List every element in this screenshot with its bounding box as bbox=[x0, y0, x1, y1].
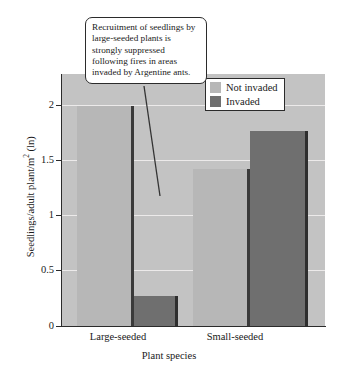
callout-annotation-text: Recruitment of seedlings by large-seeded… bbox=[92, 22, 200, 78]
bar-face bbox=[134, 296, 175, 326]
legend-swatch-icon-invaded bbox=[210, 96, 221, 107]
bar-large-seeded-invaded[interactable] bbox=[134, 296, 175, 326]
x-axis-line bbox=[61, 326, 326, 327]
legend-item-invaded[interactable]: Invaded bbox=[210, 96, 278, 107]
y-tick-mark-0 bbox=[56, 326, 62, 327]
y-axis-title-tail: (ln) bbox=[25, 136, 36, 154]
bar-side bbox=[175, 296, 178, 326]
legend: Not invaded Invaded bbox=[205, 78, 285, 111]
y-tick-mark-0.5 bbox=[56, 270, 62, 271]
y-axis-line bbox=[61, 74, 62, 327]
plot-area bbox=[62, 74, 325, 326]
x-tick-label-large-seeded: Large-seeded bbox=[63, 331, 173, 342]
y-tick-mark-1.0 bbox=[56, 215, 62, 216]
bar-large-seeded-not-invaded[interactable] bbox=[77, 106, 131, 326]
y-axis-title-main: Seedlings/adult plant/m bbox=[25, 158, 36, 257]
legend-swatch-icon-not-invaded bbox=[210, 82, 221, 93]
bar-face bbox=[193, 169, 247, 326]
y-tick-label-0: 0 bbox=[14, 321, 54, 331]
bar-face bbox=[77, 106, 131, 326]
bar-side bbox=[131, 106, 134, 326]
y-tick-mark-1.5 bbox=[56, 160, 62, 161]
y-tick-mark-2.0 bbox=[56, 105, 62, 106]
y-axis-title-superscript: 2 bbox=[22, 154, 31, 158]
figure-container: 2 1.5 1 0.5 0 Seedlings/adult plant/m2 (… bbox=[0, 0, 338, 372]
bar-small-seeded-invaded[interactable] bbox=[250, 131, 305, 326]
x-axis-title: Plant species bbox=[0, 350, 338, 361]
callout-annotation-box: Recruitment of seedlings by large-seeded… bbox=[85, 17, 207, 84]
legend-item-not-invaded[interactable]: Not invaded bbox=[210, 82, 278, 93]
bar-side bbox=[305, 131, 308, 326]
legend-label-invaded: Invaded bbox=[226, 96, 260, 107]
bar-face bbox=[250, 131, 305, 326]
legend-label-not-invaded: Not invaded bbox=[226, 82, 278, 93]
x-tick-label-small-seeded: Small-seeded bbox=[180, 331, 290, 342]
y-axis-title: Seedlings/adult plant/m2 (ln) bbox=[22, 97, 36, 297]
bar-small-seeded-not-invaded[interactable] bbox=[193, 169, 247, 326]
